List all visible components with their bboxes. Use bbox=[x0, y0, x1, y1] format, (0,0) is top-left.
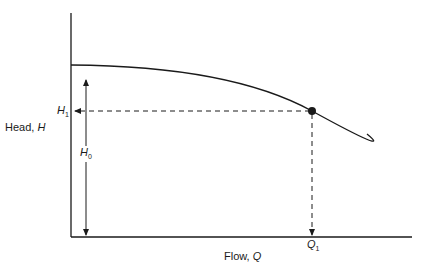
h1-label: H1 bbox=[57, 104, 69, 118]
head-curve bbox=[71, 65, 374, 141]
x-axis-label: Flow, Q bbox=[224, 250, 261, 262]
operating-point bbox=[308, 107, 316, 115]
pump-curve-diagram bbox=[0, 0, 430, 275]
h0-label: H0 bbox=[80, 146, 92, 160]
y-axis-label: Head, H bbox=[5, 121, 45, 133]
q1-label: Q1 bbox=[307, 238, 319, 252]
